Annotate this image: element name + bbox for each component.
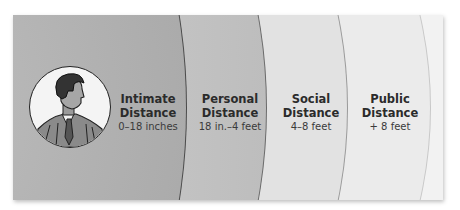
zone-range: 0–18 inches <box>110 120 186 134</box>
person-icon <box>30 67 110 147</box>
label-public: Public Distance + 8 feet <box>354 92 426 134</box>
zone-subtitle: Distance <box>276 106 346 120</box>
zone-title: Intimate <box>110 92 186 106</box>
zone-subtitle: Distance <box>190 106 270 120</box>
zone-title: Social <box>276 92 346 106</box>
zone-subtitle: Distance <box>110 106 186 120</box>
zone-title: Personal <box>190 92 270 106</box>
businessman-portrait-icon <box>29 66 111 148</box>
zone-range: + 8 feet <box>354 120 426 134</box>
label-intimate: Intimate Distance 0–18 inches <box>110 92 186 134</box>
zone-range: 18 in.–4 feet <box>190 120 270 134</box>
label-personal: Personal Distance 18 in.–4 feet <box>190 92 270 134</box>
label-social: Social Distance 4–8 feet <box>276 92 346 134</box>
zone-subtitle: Distance <box>354 106 426 120</box>
zone-title: Public <box>354 92 426 106</box>
zone-range: 4–8 feet <box>276 120 346 134</box>
